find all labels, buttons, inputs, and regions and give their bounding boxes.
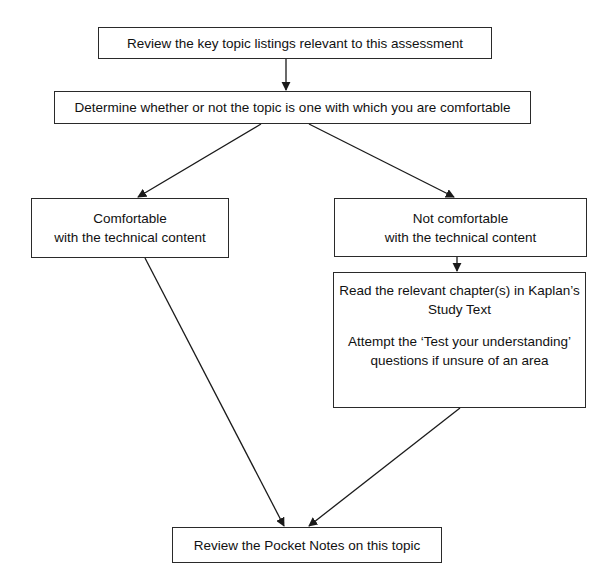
edge-study-text-to-pocket-notes bbox=[309, 408, 460, 526]
node-study-text: Read the relevant chapter(s) in Kaplan’s… bbox=[333, 272, 586, 408]
node-not-comfortable: Not comfortable with the technical conte… bbox=[334, 198, 587, 257]
node-text: Review the key topic listings relevant t… bbox=[127, 34, 463, 53]
node-text-line-1: Not comfortable bbox=[413, 209, 508, 228]
node-review-topic-listings: Review the key topic listings relevant t… bbox=[98, 27, 492, 59]
edge-comfortable-to-pocket-notes bbox=[145, 258, 284, 526]
node-comfortable: Comfortable with the technical content bbox=[31, 198, 229, 258]
edge-determine-to-not-comfortable bbox=[309, 124, 454, 197]
edge-determine-to-comfortable bbox=[138, 124, 261, 197]
node-text-line-2: with the technical content bbox=[54, 228, 206, 247]
node-review-pocket-notes: Review the Pocket Notes on this topic bbox=[172, 527, 442, 563]
node-text-line-1: Read the relevant chapter(s) in Kaplan’s bbox=[339, 281, 580, 300]
node-text: Determine whether or not the topic is on… bbox=[75, 98, 511, 117]
node-text-line-2: with the technical content bbox=[385, 228, 537, 247]
node-text: Review the Pocket Notes on this topic bbox=[194, 536, 421, 555]
node-text-line-5: questions if unsure of an area bbox=[371, 351, 549, 370]
node-determine-comfort: Determine whether or not the topic is on… bbox=[54, 91, 531, 124]
flowchart: Review the key topic listings relevant t… bbox=[0, 0, 611, 574]
node-text-line-1: Comfortable bbox=[93, 209, 167, 228]
node-text-line-4: Attempt the ‘Test your understanding’ bbox=[348, 332, 571, 351]
node-text-line-2: Study Text bbox=[428, 300, 491, 319]
